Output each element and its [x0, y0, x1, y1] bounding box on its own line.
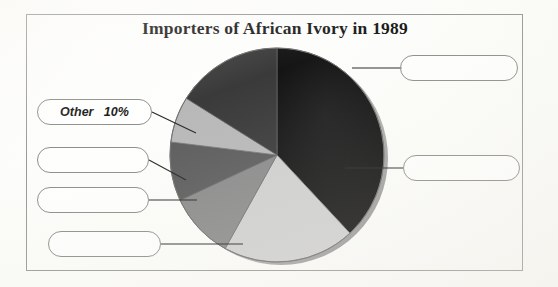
callout-left-3[interactable] [37, 187, 149, 213]
pie-chart: Other 10% [0, 0, 558, 287]
callout-other-label: Other 10% [60, 105, 129, 119]
callout-other[interactable]: Other 10% [37, 99, 152, 125]
callout-middle-right[interactable] [403, 155, 520, 181]
pie-slice-group [170, 48, 384, 262]
worksheet-page: Importers of African Ivory in 1989 [0, 0, 558, 287]
callout-left-2[interactable] [37, 147, 149, 173]
callout-top-right[interactable] [400, 55, 518, 81]
callout-left-4[interactable] [48, 231, 161, 257]
